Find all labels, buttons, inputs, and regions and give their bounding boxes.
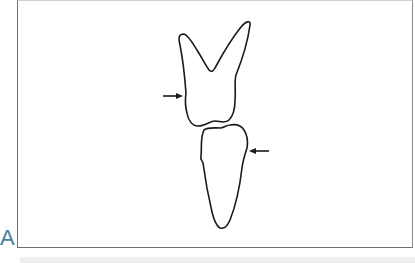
- upper-tooth-outline: [179, 22, 250, 126]
- tooth-diagram: [0, 0, 415, 263]
- arrow-right-icon: [163, 93, 183, 99]
- lower-tooth-outline: [201, 125, 248, 229]
- arrow-left-icon: [249, 148, 269, 154]
- bottom-edge-strip: [20, 257, 415, 263]
- panel-label: A: [0, 227, 15, 249]
